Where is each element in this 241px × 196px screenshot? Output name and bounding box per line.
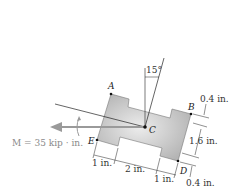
moment-label: M = 35 kip · in. [12, 138, 83, 148]
dim-top-flange-label: 0.4 in. [200, 94, 229, 104]
cross-section-diagram: 15° M = 35 kip · in. A B C D E 0.4 in. 1… [0, 0, 241, 196]
point-b-label: B [187, 102, 195, 112]
point-d-marker [177, 160, 180, 163]
dim-top-flange-arrow [204, 104, 206, 115]
moment-vector-arrowhead [50, 122, 62, 132]
point-a-marker [110, 93, 113, 96]
dim-right-segment-label: 1 in. [154, 174, 174, 184]
ext-line-flange-top [193, 123, 207, 127]
dim-middle-segment-label: 2 in. [125, 164, 145, 174]
point-d-label: D [179, 166, 187, 176]
dim-left-segment-label: 1 in. [92, 158, 112, 168]
moment-rotation-arrowhead-icon [77, 116, 81, 121]
diagram-canvas: 15° M = 35 kip · in. A B C D E 0.4 in. 1… [0, 0, 241, 196]
ext-line-flange-bottom [182, 153, 199, 158]
ext-line-step-left [114, 148, 118, 164]
ext-line-step-right [156, 158, 160, 174]
point-c-marker [143, 125, 147, 129]
ext-line-b [193, 114, 209, 118]
ext-line-d-bottom [174, 163, 178, 178]
angle-label: 15° [146, 65, 162, 75]
point-e-label: E [87, 136, 95, 146]
dim-web-height-label: 1.6 in. [189, 136, 218, 146]
point-b-marker [190, 113, 193, 116]
dim-bottom-flange-arrow [190, 166, 192, 177]
point-e-marker [96, 139, 99, 142]
dim-bottom-flange-label: 0.4 in. [186, 178, 215, 188]
point-c-label: C [149, 125, 156, 135]
point-a-label: A [107, 81, 115, 91]
